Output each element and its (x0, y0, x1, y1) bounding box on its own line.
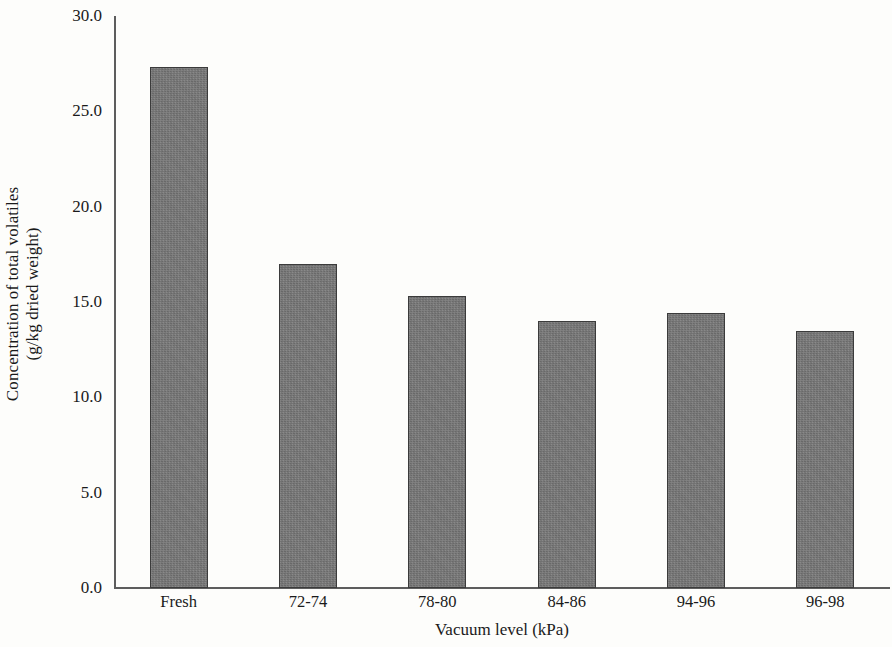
y-tick-label: 30.0 (32, 6, 102, 26)
bar-slot (538, 16, 596, 588)
y-tick-label: 15.0 (32, 292, 102, 312)
bar[interactable] (408, 296, 466, 588)
y-tick-label: 20.0 (32, 197, 102, 217)
y-axis-title-line-1: Concentration of total volatiles (3, 187, 23, 401)
bar[interactable] (150, 67, 208, 588)
x-tick-label: Fresh (160, 592, 197, 612)
y-tick-label: 0.0 (32, 578, 102, 598)
x-tick-label: 72-74 (289, 592, 328, 612)
x-tick-label: 78-80 (418, 592, 457, 612)
y-tick-label: 25.0 (32, 101, 102, 121)
x-tick-label: 94-96 (677, 592, 716, 612)
bar[interactable] (279, 264, 337, 588)
x-tick-label: 84-86 (547, 592, 586, 612)
bar[interactable] (796, 331, 854, 588)
bars-layer (114, 16, 890, 588)
bar-slot (279, 16, 337, 588)
bar[interactable] (667, 313, 725, 588)
plot-area: 30.025.020.015.010.05.00.0 (114, 16, 890, 588)
y-tick-label: 10.0 (32, 387, 102, 407)
bar-slot (150, 16, 208, 588)
bar[interactable] (538, 321, 596, 588)
x-tick-label: 96-98 (806, 592, 845, 612)
bar-chart: Concentration of total volatiles (g/kg d… (0, 0, 892, 647)
bar-slot (667, 16, 725, 588)
bar-slot (796, 16, 854, 588)
y-tick-label: 5.0 (32, 483, 102, 503)
bar-slot (408, 16, 466, 588)
x-axis-title: Vacuum level (kPa) (114, 620, 890, 640)
